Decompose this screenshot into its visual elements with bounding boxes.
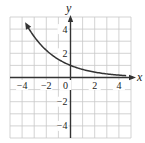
y-tick-label: −4 — [57, 120, 68, 131]
y-tick-label: −2 — [57, 96, 68, 107]
x-axis-arrow-icon — [129, 75, 136, 80]
curve-path — [28, 26, 127, 75]
x-tick-label: 2 — [92, 80, 97, 91]
y-tick-label: 2 — [63, 48, 68, 59]
y-axis-label: y — [65, 1, 72, 15]
x-tick-label: 0 — [63, 80, 68, 91]
x-tick-label: 4 — [116, 80, 121, 91]
y-tick-label: 4 — [63, 24, 68, 35]
coordinate-plane: −4−202442−2−4 x y — [0, 0, 145, 143]
axes — [10, 15, 136, 138]
x-tick-label: −4 — [17, 80, 28, 91]
exponential-curve — [25, 22, 126, 75]
y-axis-arrow-icon — [68, 15, 73, 22]
x-tick-label: −2 — [41, 80, 52, 91]
x-axis-label: x — [136, 70, 143, 84]
